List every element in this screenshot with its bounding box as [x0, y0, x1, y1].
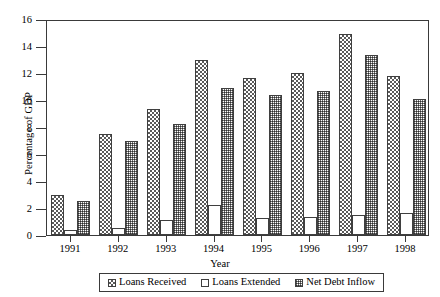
x-axis-tick	[357, 236, 358, 242]
y-axis-tick-label: 12	[0, 69, 32, 80]
bar	[256, 218, 269, 235]
bar	[221, 88, 234, 235]
bar	[147, 109, 160, 235]
bar	[387, 76, 400, 235]
legend-item: Loans Received	[108, 277, 186, 288]
bar	[64, 230, 77, 235]
bar-chart: Percentage of GDP 0246810121416 Year Loa…	[0, 0, 440, 297]
bar	[352, 215, 365, 235]
bar	[51, 195, 64, 236]
y-axis-tick	[36, 74, 46, 75]
bar	[195, 60, 208, 236]
y-axis-tick	[36, 47, 46, 48]
bar	[173, 124, 186, 235]
bar	[291, 73, 304, 235]
x-axis-tick	[70, 236, 71, 242]
bar-group	[143, 21, 191, 235]
bar-group	[286, 21, 334, 235]
x-axis-tick	[405, 236, 406, 242]
legend-item: Net Debt Inflow	[295, 277, 375, 288]
y-axis-tick	[36, 101, 46, 102]
bar	[77, 201, 90, 235]
y-axis-tick-label: 14	[0, 42, 32, 53]
bar-group	[95, 21, 143, 235]
legend-swatch-icon	[108, 279, 116, 287]
bar-group	[382, 21, 430, 235]
bar	[413, 99, 426, 235]
plot-area	[46, 20, 429, 236]
bar	[339, 34, 352, 235]
bar	[304, 217, 317, 235]
y-axis-tick-label: 16	[0, 15, 32, 26]
y-axis-tick	[36, 236, 46, 237]
bar	[400, 213, 413, 235]
bar	[208, 205, 221, 235]
x-axis-tick	[166, 236, 167, 242]
y-axis-tick	[36, 128, 46, 129]
y-axis-tick-label: 0	[0, 231, 32, 242]
x-axis-title: Year	[0, 258, 440, 269]
y-axis-tick-label: 8	[0, 123, 32, 134]
x-axis-tick	[309, 236, 310, 242]
y-axis-tick-label: 2	[0, 204, 32, 215]
bar	[365, 55, 378, 235]
legend-label: Loans Extended	[212, 277, 280, 288]
bar-group	[47, 21, 95, 235]
y-axis-tick	[36, 209, 46, 210]
bar	[269, 95, 282, 235]
bar	[243, 78, 256, 235]
bar	[317, 91, 330, 235]
bar	[112, 228, 125, 235]
bar-group	[334, 21, 382, 235]
x-axis-tick	[261, 236, 262, 242]
bar	[125, 141, 138, 236]
chart-legend: Loans ReceivedLoans ExtendedNet Debt Inf…	[99, 273, 384, 292]
legend-swatch-icon	[295, 279, 303, 287]
x-axis-tick-label: 1998	[375, 244, 435, 255]
bar	[160, 220, 173, 235]
legend-swatch-icon	[201, 279, 209, 287]
bar-group	[191, 21, 239, 235]
bar-group	[239, 21, 287, 235]
bar	[99, 134, 112, 235]
y-axis-tick	[36, 155, 46, 156]
y-axis-tick	[36, 20, 46, 21]
y-axis-tick-label: 10	[0, 96, 32, 107]
bar-groups	[47, 21, 428, 235]
y-axis-tick-label: 6	[0, 150, 32, 161]
y-axis-tick-label: 4	[0, 177, 32, 188]
y-axis-tick	[36, 182, 46, 183]
legend-item: Loans Extended	[201, 277, 280, 288]
legend-label: Net Debt Inflow	[306, 277, 375, 288]
x-axis-tick	[118, 236, 119, 242]
legend-label: Loans Received	[119, 277, 186, 288]
x-axis-tick	[214, 236, 215, 242]
